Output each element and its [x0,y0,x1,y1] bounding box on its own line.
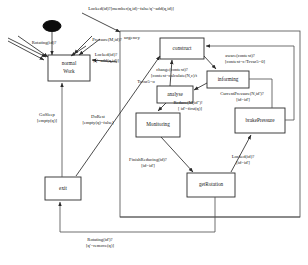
edge-label-tcvar: Tcvar5=o [137,79,155,84]
edge-label-locked-getrotation-2: [id=id'] [236,160,250,165]
edge-label-rotating: Rotating(id)? [32,40,57,45]
state-label-analyse: analyse [167,91,183,97]
edge-label-reduce-2: [ id'=first(q)] [178,106,202,111]
edge-label-finishreducing-1: FinishReducing(id)? [129,157,167,162]
statechart-canvas: urgency normal Work exit construct infor… [0,0,308,265]
edge-label-rotating-exit-2: [q'=remove(q)] [86,243,114,248]
initial-state-dot [43,21,61,32]
statechart-svg: urgency normal Work exit construct infor… [0,0,308,265]
edge-rotating-exit [60,197,215,232]
state-label-exit: exit [59,185,67,191]
edge-label-locked-to-region: Locked(id)?[member(q,id)=false/q'=add(q,… [88,6,174,12]
edge-label-rotating-exit-1: Rotating(id')? [87,237,112,242]
edge-label-dorest-1: DoRest [91,114,106,119]
state-label-get-rotation: getRotation [199,181,224,187]
edge-finishreducing [161,137,193,172]
edge-label-gosleep-1: GoSleep [39,112,56,117]
edge-label-aware-1: aware(context)? [225,53,255,58]
edge-reduce [158,103,166,111]
edge-label-change-1: change(context)? [156,67,188,72]
state-label-monitoring: Monitoring [146,121,170,127]
edge-label-aware-2: [context=c/Tcvar5=0] [225,59,266,64]
edge-change-context [194,83,207,90]
state-label-informing: informing [218,76,239,82]
region-label-urgency: urgency [124,35,141,40]
edge-label-locked-add-1: Locked(id)? [95,52,117,57]
edge-label-locked-getrotation-1: Locked(id)? [232,154,254,159]
edge-label-currentpressure-2: [id=id'] [236,97,250,102]
edge-pressure-a [74,36,92,54]
edge-locked-to-region [82,13,120,32]
edge-label-locked-add-2: [q'=add(q,id)] [93,58,119,64]
state-label-normal-work-2: Work [63,68,75,74]
state-label-construct: construct [172,45,192,51]
edge-label-dorest-2: [empty(q)=false] [82,120,114,125]
state-label-brake-pressure: brakePressure [245,117,275,123]
edge-label-pressure: Pressure(M,id)? [92,37,121,43]
edge-label-change-2: [context=calculate(N,c)/t [151,73,198,79]
edge-aware [204,56,216,69]
edge-label-gosleep-2: [empty(q)] [37,118,57,123]
edge-label-finishreducing-2: [id=id'] [141,163,155,168]
state-label-normal-work-1: normal [62,60,77,66]
